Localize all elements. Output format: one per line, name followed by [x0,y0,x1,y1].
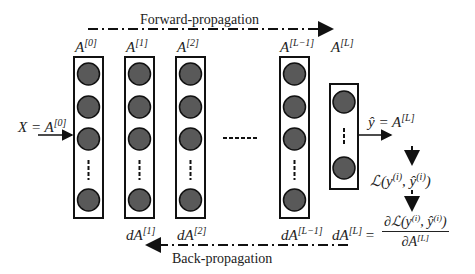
layer-box-0 [74,57,103,218]
activation-label-l: A[L] [331,38,354,55]
activation-label-0: A[0] [75,38,97,55]
loss-label: ℒ(y(i), ŷ(i)) [370,172,431,189]
gradient-formula: ∂ℒ(y(i), ŷ(i)) ∂A[L] [382,214,449,250]
activation-label-l-minus-1: A[L−1] [280,38,314,55]
layer-box-output [330,84,358,189]
gradient-label-l: dA[L] = [332,226,374,243]
gradient-label-1: dA[1] [126,226,155,243]
back-propagation-title: Back-propagation [172,252,272,266]
input-label: X = A[0] [18,118,66,135]
gradient-label-2: dA[2] [177,226,206,243]
activation-label-1: A[1] [126,38,148,55]
gradient-denominator: ∂A[L] [402,232,430,249]
activation-label-2: A[2] [177,38,199,55]
forward-propagation-title: Forward-propagation [140,13,259,27]
layer-box-2 [176,57,205,218]
gradient-label-l-minus-1: dA[L−1] [281,226,323,243]
gradient-numerator: ∂ℒ(y(i), ŷ(i)) [382,214,449,232]
layer-box-1 [125,57,154,218]
layer-box-l-minus-1 [280,57,309,218]
output-label: ŷ = A[L] [368,113,415,130]
